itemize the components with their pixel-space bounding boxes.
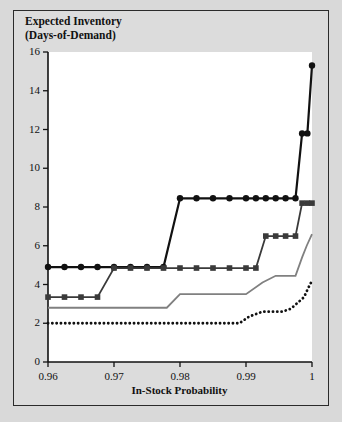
data-point-marker: [243, 195, 249, 201]
y-tick-label: 8: [18, 200, 40, 212]
data-point-marker: [78, 264, 84, 270]
data-point-marker: [78, 294, 84, 300]
x-tick-label: 0.98: [160, 370, 200, 382]
data-point-marker: [243, 265, 249, 271]
y-tick-label: 6: [18, 239, 40, 251]
data-point-marker: [177, 265, 183, 271]
x-tick-label: 0.97: [94, 370, 134, 382]
y-tick-label: 10: [18, 161, 40, 173]
data-point-marker: [263, 195, 269, 201]
plot-area: [0, 0, 342, 422]
y-tick-label: 4: [18, 278, 40, 290]
data-point-marker: [111, 265, 117, 271]
data-point-marker: [253, 265, 259, 271]
data-point-marker: [62, 294, 68, 300]
x-axis-title: In-Stock Probability: [47, 384, 312, 396]
data-point-marker: [210, 265, 216, 271]
data-point-marker: [144, 265, 150, 271]
data-point-marker: [273, 233, 279, 239]
y-tick-label: 0: [18, 355, 40, 367]
data-point-marker: [283, 233, 289, 239]
chart-figure: Expected Inventory (Days-of-Demand) 0246…: [0, 0, 342, 422]
x-tick-label: 0.99: [226, 370, 266, 382]
y-tick-label: 14: [18, 84, 40, 96]
x-tick-label: 1: [292, 370, 332, 382]
data-point-marker: [128, 265, 134, 271]
data-point-marker: [94, 264, 100, 270]
data-point-marker: [45, 264, 51, 270]
data-point-marker: [193, 195, 199, 201]
data-point-marker: [309, 200, 315, 206]
y-tick-label: 2: [18, 316, 40, 328]
data-point-marker: [253, 195, 259, 201]
y-tick-label: 16: [18, 45, 40, 57]
data-point-marker: [227, 265, 233, 271]
data-point-marker: [282, 195, 288, 201]
data-point-marker: [95, 294, 101, 300]
data-point-marker: [61, 264, 67, 270]
y-tick-label: 12: [18, 123, 40, 135]
data-point-marker: [293, 233, 299, 239]
x-tick-label: 0.96: [28, 370, 68, 382]
data-point-marker: [273, 195, 279, 201]
data-point-marker: [304, 130, 310, 136]
data-point-marker: [309, 62, 315, 68]
data-point-marker: [45, 294, 51, 300]
data-point-marker: [263, 233, 269, 239]
data-point-marker: [292, 195, 298, 201]
data-point-marker: [299, 200, 305, 206]
data-point-marker: [177, 195, 183, 201]
data-point-marker: [161, 265, 167, 271]
data-point-marker: [194, 265, 200, 271]
data-point-marker: [210, 195, 216, 201]
data-point-marker: [226, 195, 232, 201]
